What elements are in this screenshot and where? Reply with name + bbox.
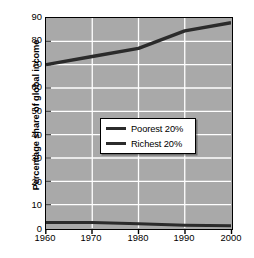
x-tick-label: 1980: [118, 232, 158, 243]
legend-line-swatch-icon: [106, 142, 126, 145]
x-tick-label: 1990: [164, 232, 204, 243]
x-tick-label: 1970: [71, 232, 111, 243]
y-tick-label: 30: [16, 153, 42, 163]
y-tick-label: 50: [16, 106, 42, 116]
y-tick-label: 10: [16, 200, 42, 210]
y-tick-label: 90: [16, 12, 42, 22]
legend-item-richest: Richest 20%: [106, 136, 195, 151]
y-tick-label: 40: [16, 130, 42, 140]
x-axis-tick-labels: 1960 1970 1980 1990 2000: [0, 232, 254, 248]
chart-legend: Poorest 20% Richest 20%: [100, 118, 196, 154]
x-tick-label: 2000: [211, 232, 251, 243]
y-tick-label: 60: [16, 82, 42, 92]
legend-label: Poorest 20%: [131, 124, 183, 134]
legend-item-poorest: Poorest 20%: [106, 121, 195, 136]
x-tick-label: 1960: [25, 232, 65, 243]
line-chart: Percentage share of global income 90 80 …: [0, 0, 254, 258]
y-axis-tick-labels: 90 80 70 60 50 40 30 20 10 0: [12, 0, 42, 258]
y-tick-label: 80: [16, 35, 42, 45]
y-tick-label: 70: [16, 59, 42, 69]
series-line-poorest: [46, 223, 231, 226]
legend-line-swatch-icon: [106, 127, 126, 130]
legend-label: Richest 20%: [131, 139, 182, 149]
y-tick-label: 20: [16, 177, 42, 187]
